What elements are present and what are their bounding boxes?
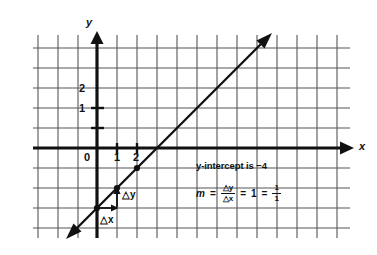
slope-fraction-delta: △y △x: [221, 184, 235, 203]
slope-equals-1: =: [210, 189, 216, 199]
slope-fraction-one-over-one: 1 1: [272, 184, 280, 203]
y-intercept-note: y-intercept is −4: [196, 161, 267, 171]
y-axis-arrowhead: [91, 31, 104, 44]
x-tick-label-1: 1: [114, 152, 120, 163]
coordinate-plane: [0, 0, 377, 255]
slope-fraction-numerator: △y: [221, 184, 235, 193]
slope-value: 1: [251, 189, 257, 199]
x-tick-label-2: 2: [133, 152, 139, 163]
slope-equals-2: =: [240, 189, 246, 199]
y-tick-label-2: 2: [79, 83, 85, 94]
x-axis-label: x: [359, 141, 365, 152]
slope-fraction-denominator: △x: [221, 193, 235, 203]
x-axis-arrowhead: [340, 142, 354, 155]
point-2: [134, 165, 140, 171]
slope-symbol: m: [196, 189, 205, 199]
grid-horizontal-lines: [33, 48, 350, 228]
slope-fraction2-denominator: 1: [272, 193, 280, 203]
slope-fraction2-numerator: 1: [272, 184, 280, 193]
delta-x-label: △x: [100, 215, 114, 225]
origin-label: 0: [84, 152, 90, 163]
slope-equals-3: =: [262, 189, 268, 199]
delta-y-label: △y: [122, 190, 136, 200]
y-tick-label-1: 1: [79, 103, 85, 114]
x-axis: [33, 142, 354, 155]
slope-formula: m = △y △x = 1 = 1 1: [196, 184, 281, 203]
graph-figure: y x 0 1 2 1 2 △y △x y-intercept is −4 m …: [0, 0, 377, 255]
y-axis-label: y: [86, 17, 92, 28]
